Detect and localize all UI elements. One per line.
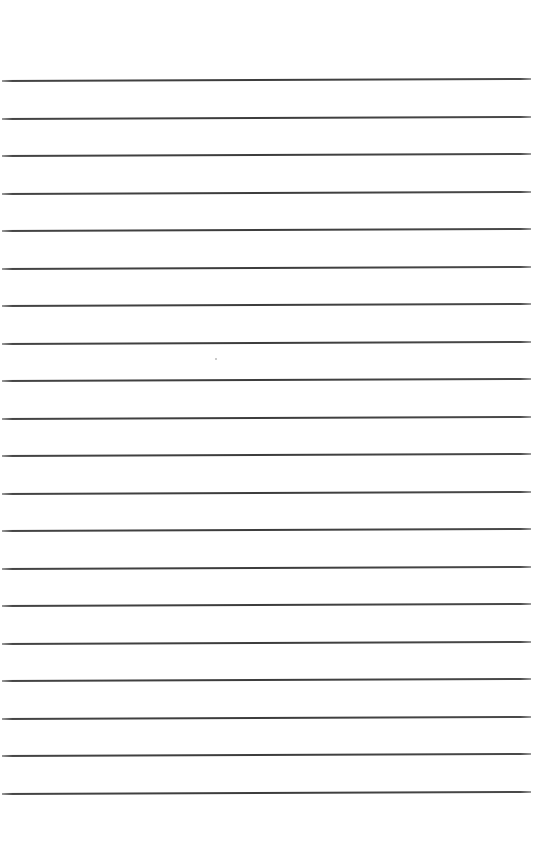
- ruled-line: [2, 715, 531, 719]
- ruled-line: [2, 78, 531, 82]
- ruled-line: [2, 753, 531, 757]
- ruled-line: [2, 340, 531, 344]
- ruled-line: [2, 378, 531, 382]
- ruled-line: [2, 190, 531, 194]
- ruled-line: [2, 115, 531, 119]
- ruled-line: [2, 415, 531, 419]
- ruled-line: [2, 453, 531, 457]
- lined-paper-sheet: [0, 0, 533, 865]
- paper-speck: [215, 358, 217, 360]
- ruled-line: [2, 640, 531, 644]
- ruled-line: [2, 153, 531, 157]
- ruled-line: [2, 528, 531, 532]
- ruled-line: [2, 228, 531, 232]
- ruled-line: [2, 490, 531, 494]
- ruled-line: [2, 790, 531, 794]
- ruled-line: [2, 565, 531, 569]
- ruled-line: [2, 303, 531, 307]
- ruled-line: [2, 678, 531, 682]
- ruled-line: [2, 265, 531, 269]
- ruled-line: [2, 603, 531, 607]
